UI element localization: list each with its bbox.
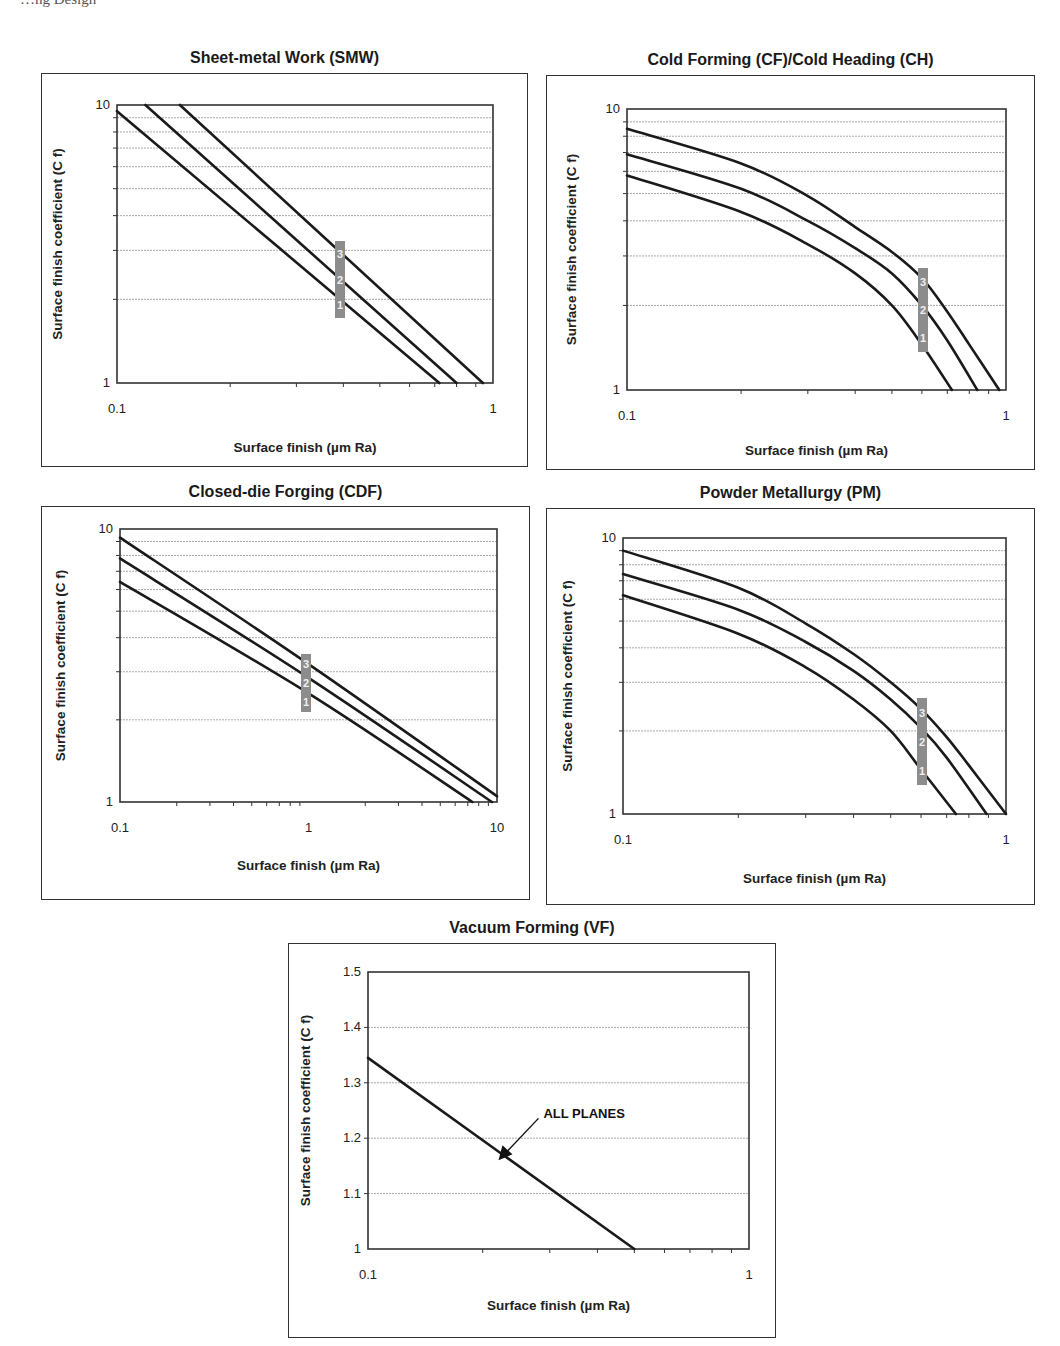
y-tick-label: 1.4 — [343, 1019, 361, 1034]
y-tick-label: 1.1 — [343, 1186, 361, 1201]
annotation-label: ALL PLANES — [543, 1106, 625, 1121]
y-tick-label: 1 — [354, 1241, 361, 1256]
x-tick-label: 0.1 — [359, 1267, 377, 1282]
x-axis-title: Surface finish (µm Ra) — [487, 1298, 630, 1313]
x-tick-label: 1 — [745, 1267, 752, 1282]
y-axis-title: Surface finish coefficient (C f) — [298, 1015, 313, 1206]
y-tick-label: 1.2 — [343, 1130, 361, 1145]
y-tick-label: 1.3 — [343, 1075, 361, 1090]
y-tick-label: 1.5 — [343, 964, 361, 979]
chart-plot-vf: 11.11.21.31.41.50.11Surface finish (µm R… — [0, 0, 1060, 1346]
